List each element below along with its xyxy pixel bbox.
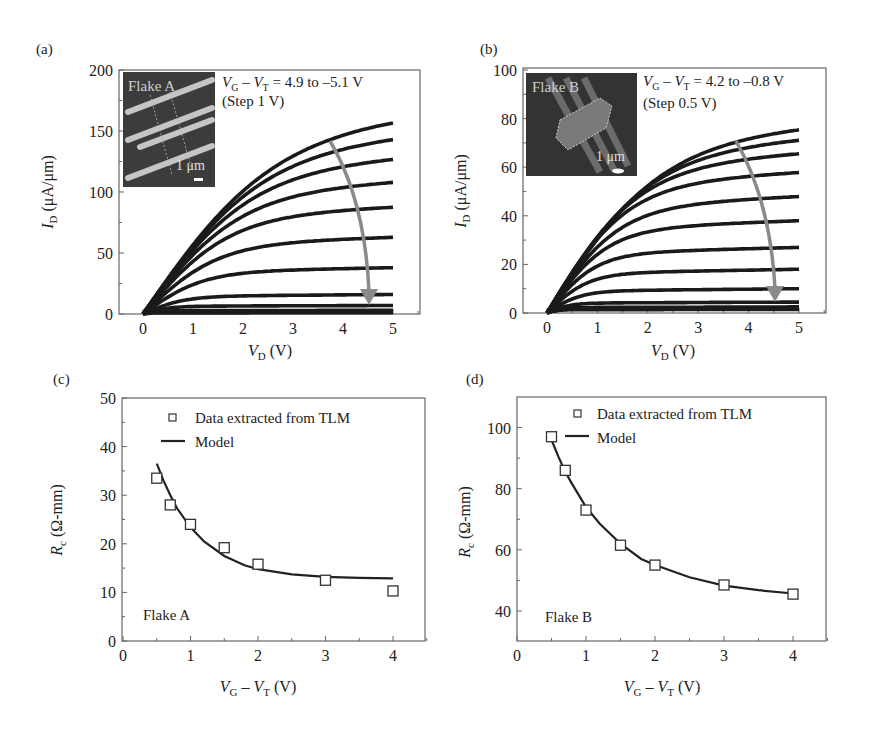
data-point-square-marker (581, 505, 591, 515)
svg-text:4: 4 (389, 647, 397, 664)
svg-text:0: 0 (139, 320, 147, 337)
svg-text:3: 3 (289, 320, 297, 337)
svg-text:60: 60 (495, 542, 511, 559)
panel-c-legend: Data extracted from TLM Model (161, 410, 350, 450)
panel-a-y-axis-label: ID (μA/μm) (39, 155, 59, 230)
svg-text:20: 20 (501, 256, 517, 273)
panel-b-x-ticks: 012345 (543, 308, 824, 336)
panel-b-y-axis-label: ID (μA/μm) (452, 154, 472, 229)
panel-a: (a) 050100150200 012345 Flake A 1 μm VG … (36, 41, 420, 362)
svg-text:1: 1 (189, 320, 197, 337)
svg-text:200: 200 (89, 62, 113, 79)
svg-text:2: 2 (254, 647, 262, 664)
svg-text:60: 60 (501, 159, 517, 176)
legend-square-marker-icon (169, 414, 176, 421)
figure: (a) 050100150200 012345 Flake A 1 μm VG … (0, 0, 869, 738)
legend-data-label: Data extracted from TLM (597, 406, 752, 422)
data-point-square-marker (152, 473, 162, 483)
panel-d-x-axis-label: VG – VT (V) (624, 678, 700, 698)
inset-b-label: Flake B (532, 79, 579, 95)
svg-text:100: 100 (493, 62, 517, 79)
panel-d-x-ticks: 01234 (513, 636, 828, 664)
data-point-square-marker (253, 559, 263, 569)
legend-model-label: Model (597, 430, 636, 446)
inset-a-label: Flake A (128, 78, 175, 94)
panel-c: (c) 01020304050 01234 Data extracted fro… (48, 371, 427, 698)
data-point-square-marker (788, 589, 798, 599)
svg-text:0: 0 (513, 647, 521, 664)
panel-b-inset-micrograph: Flake B 1 μm (526, 73, 637, 176)
panel-b-letter: (b) (480, 41, 498, 58)
svg-text:40: 40 (495, 603, 511, 620)
svg-text:30: 30 (100, 487, 116, 504)
panel-d-rc-data (547, 432, 799, 599)
panel-c-x-ticks: 01234 (119, 636, 427, 664)
svg-text:4: 4 (339, 320, 347, 337)
data-point-square-marker (321, 575, 331, 585)
inset-b-scale-bar (612, 169, 624, 174)
panel-b-gate-range-annotation: VG – VT = 4.2 to –0.8 V (643, 73, 784, 92)
svg-text:20: 20 (100, 536, 116, 553)
svg-text:100: 100 (89, 184, 113, 201)
data-point-square-marker (616, 540, 626, 550)
panel-a-inset-micrograph: Flake A 1 μm (123, 72, 215, 187)
svg-text:80: 80 (501, 111, 517, 128)
svg-text:80: 80 (495, 481, 511, 498)
panel-b: (b) 020406080100 012345 Flake B 1 μm VG … (452, 41, 826, 362)
svg-text:100: 100 (487, 420, 511, 437)
panel-c-y-ticks: 01020304050 (100, 390, 127, 650)
panel-c-y-axis-label: Rc (Ω-mm) (48, 484, 68, 556)
data-point-square-marker (165, 500, 175, 510)
panel-d-plot-frame (517, 397, 826, 641)
panel-d-flake-label: Flake B (545, 609, 592, 625)
svg-text:10: 10 (100, 584, 116, 601)
data-point-square-marker (547, 432, 557, 442)
svg-text:1: 1 (593, 319, 601, 336)
svg-text:0: 0 (105, 306, 113, 323)
panel-b-x-axis-label: VD (V) (651, 342, 695, 362)
inset-a-scale-label: 1 μm (176, 158, 205, 173)
svg-text:1: 1 (582, 647, 590, 664)
data-point-square-marker (560, 465, 570, 475)
svg-text:50: 50 (97, 245, 113, 262)
svg-text:0: 0 (108, 633, 116, 650)
svg-text:2: 2 (239, 320, 247, 337)
data-point-square-marker (650, 560, 660, 570)
panel-d-y-axis-label: Rc (Ω-mm) (456, 486, 476, 558)
svg-text:5: 5 (389, 320, 397, 337)
panel-c-letter: (c) (53, 371, 70, 388)
svg-text:4: 4 (745, 319, 753, 336)
panel-a-gate-range-annotation: VG – VT = 4.9 to –5.1 V (222, 74, 363, 93)
svg-text:3: 3 (322, 647, 330, 664)
legend-data-label: Data extracted from TLM (195, 410, 350, 426)
panel-a-step-annotation: (Step 1 V) (222, 93, 284, 110)
svg-text:3: 3 (720, 647, 728, 664)
data-point-square-marker (719, 580, 729, 590)
svg-text:4: 4 (789, 647, 797, 664)
svg-text:3: 3 (694, 319, 702, 336)
panel-a-x-axis-label: VD (V) (248, 342, 292, 362)
svg-text:0: 0 (543, 319, 551, 336)
svg-text:0: 0 (509, 305, 517, 322)
svg-text:40: 40 (100, 439, 116, 456)
panel-c-rc-data (152, 464, 398, 596)
panel-c-plot-frame (122, 398, 425, 641)
inset-b-scale-label: 1 μm (596, 149, 625, 164)
legend-square-marker-icon (574, 410, 581, 417)
panel-d-legend: Data extracted from TLM Model (565, 406, 752, 446)
svg-text:1: 1 (187, 647, 195, 664)
panel-d: (d) 406080100 01234 Data extracted from … (456, 371, 828, 698)
panel-c-flake-label: Flake A (143, 607, 190, 623)
data-point-square-marker (186, 519, 196, 529)
svg-text:0: 0 (119, 647, 127, 664)
panel-b-step-annotation: (Step 0.5 V) (643, 95, 716, 112)
svg-text:5: 5 (795, 319, 803, 336)
svg-text:2: 2 (651, 647, 659, 664)
svg-text:150: 150 (89, 123, 113, 140)
data-point-square-marker (219, 543, 229, 553)
svg-text:40: 40 (501, 208, 517, 225)
data-point-square-marker (388, 586, 398, 596)
panel-c-x-axis-label: VG – VT (V) (220, 678, 296, 698)
panel-a-letter: (a) (36, 41, 53, 58)
panel-d-letter: (d) (466, 371, 484, 388)
